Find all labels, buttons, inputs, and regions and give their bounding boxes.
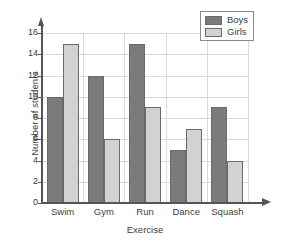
bar-squash-boys <box>211 107 227 203</box>
bar-chart: Number of students 0246810121416 SwimGym… <box>0 0 284 243</box>
legend-label-girls: Girls <box>227 27 247 37</box>
x-axis-line <box>41 202 263 204</box>
x-tick-label-squash: Squash <box>197 206 257 217</box>
y-axis-arrow-icon <box>38 17 44 26</box>
bar-run-girls <box>145 107 161 203</box>
y-tick-label-14: 14 <box>10 49 38 58</box>
y-tick-label-16: 16 <box>10 28 38 37</box>
bar-swim-girls <box>63 44 79 203</box>
legend-item-girls: Girls <box>205 27 248 37</box>
gridline-vertical <box>207 33 208 203</box>
y-tick-label-6: 6 <box>10 134 38 143</box>
girls-swatch-icon <box>205 28 222 37</box>
plot-area <box>42 33 248 203</box>
x-axis-arrow-icon <box>262 198 271 206</box>
legend-label-boys: Boys <box>227 15 248 25</box>
bar-run-boys <box>129 44 145 203</box>
y-tick-label-12: 12 <box>10 71 38 80</box>
gridline-vertical <box>248 33 249 203</box>
y-tick-label-4: 4 <box>10 156 38 165</box>
y-tick-label-8: 8 <box>10 113 38 122</box>
x-axis-title: Exercise <box>42 224 248 235</box>
bar-swim-boys <box>47 97 63 203</box>
y-tick-label-10: 10 <box>10 92 38 101</box>
legend-item-boys: Boys <box>205 15 248 25</box>
gridline-vertical <box>83 33 84 203</box>
bar-dance-girls <box>186 129 202 203</box>
gridline-vertical <box>124 33 125 203</box>
y-axis-line <box>41 25 43 204</box>
y-tick-label-2: 2 <box>10 177 38 186</box>
bar-squash-girls <box>227 161 243 204</box>
bar-gym-boys <box>88 76 104 204</box>
legend: Boys Girls <box>200 11 254 41</box>
boys-swatch-icon <box>205 16 222 25</box>
bar-dance-boys <box>170 150 186 203</box>
gridline-vertical <box>166 33 167 203</box>
bar-gym-girls <box>104 139 120 203</box>
